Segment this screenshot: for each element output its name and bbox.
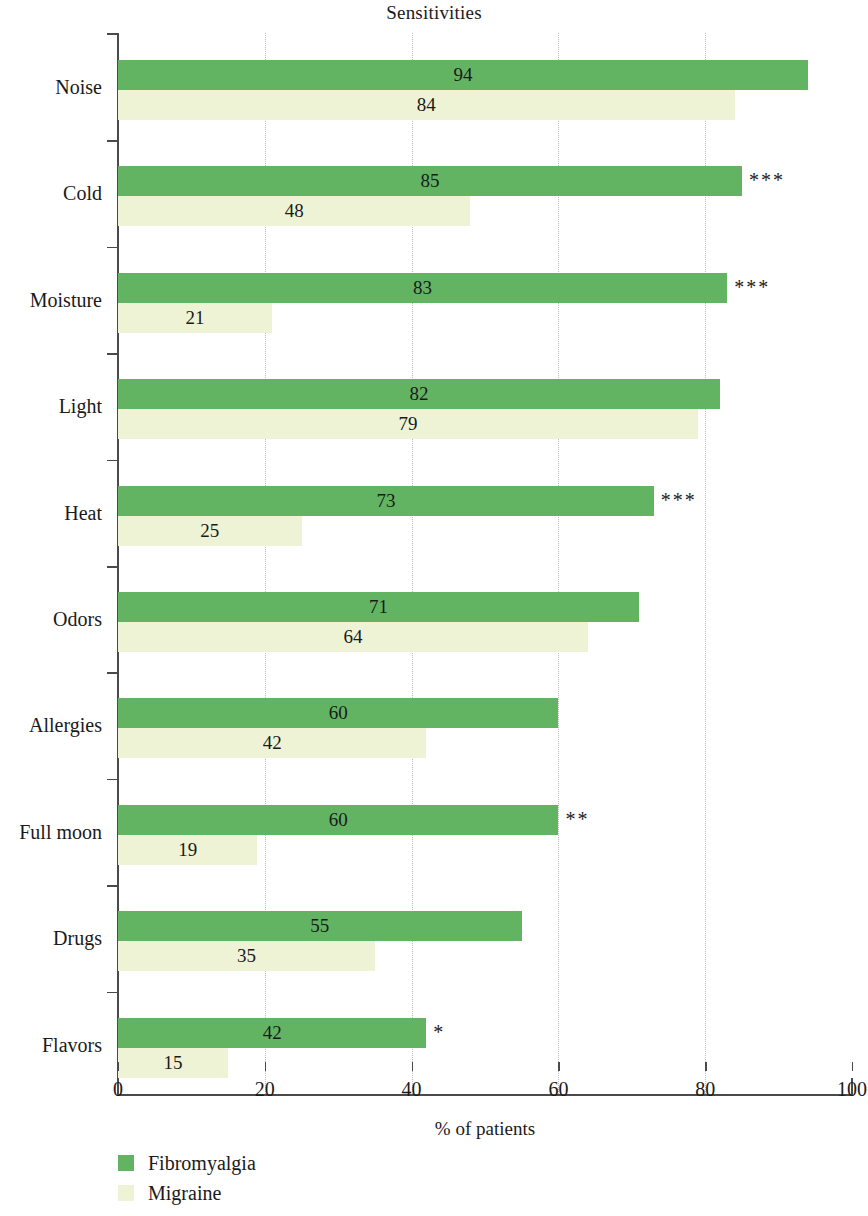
legend-label-fibromyalgia: Fibromyalgia	[148, 1153, 256, 1173]
bar-fibromyalgia-full-moon	[118, 805, 558, 835]
significance-marker-cold: ***	[749, 166, 785, 196]
legend-swatch-migraine	[118, 1185, 134, 1201]
x-tick-80	[705, 1062, 706, 1071]
category-label-heat: Heat	[0, 502, 102, 525]
category-label-flavors: Flavors	[0, 1034, 102, 1057]
y-tick-7	[107, 779, 118, 781]
bar-migraine-heat	[118, 516, 302, 546]
category-label-allergies: Allergies	[0, 714, 102, 737]
y-tick-6	[107, 672, 118, 674]
significance-marker-full-moon: **	[565, 805, 589, 835]
legend-item-fibromyalgia[interactable]: Fibromyalgia	[118, 1148, 256, 1178]
y-tick-3	[107, 353, 118, 355]
chart-title: Sensitivities	[0, 2, 868, 24]
sensitivities-bar-chart: Sensitivities 94848548***8321***82797325…	[0, 0, 868, 1216]
x-tick-100	[852, 1062, 853, 1071]
y-tick-1	[107, 140, 118, 142]
bar-migraine-cold	[118, 196, 470, 226]
bar-migraine-moisture	[118, 303, 272, 333]
chart-legend: FibromyalgiaMigraine	[118, 1148, 256, 1208]
plot-area: 94848548***8321***82797325***71646042601…	[118, 33, 852, 1094]
y-tick-4	[107, 460, 118, 462]
legend-swatch-fibromyalgia	[118, 1155, 134, 1171]
category-label-drugs: Drugs	[0, 927, 102, 950]
category-label-light: Light	[0, 395, 102, 418]
bar-fibromyalgia-odors	[118, 592, 639, 622]
bar-migraine-flavors	[118, 1048, 228, 1078]
x-tick-20	[265, 1062, 266, 1071]
bar-migraine-noise	[118, 90, 735, 120]
bar-migraine-drugs	[118, 941, 375, 971]
category-label-cold: Cold	[0, 182, 102, 205]
x-tick-label-80: 80	[675, 1078, 735, 1101]
x-tick-label-100: 100	[822, 1078, 868, 1101]
x-tick-label-20: 20	[235, 1078, 295, 1101]
y-tick-8	[107, 885, 118, 887]
bar-migraine-allergies	[118, 728, 426, 758]
bar-migraine-full-moon	[118, 835, 257, 865]
bar-fibromyalgia-heat	[118, 486, 654, 516]
bar-fibromyalgia-drugs	[118, 911, 522, 941]
bar-fibromyalgia-flavors	[118, 1018, 426, 1048]
y-tick-9	[107, 992, 118, 994]
x-tick-0	[118, 1062, 119, 1071]
x-tick-label-60: 60	[528, 1078, 588, 1101]
x-tick-40	[412, 1062, 413, 1071]
significance-marker-heat: ***	[661, 486, 697, 516]
bar-migraine-light	[118, 409, 698, 439]
category-label-noise: Noise	[0, 76, 102, 99]
y-tick-0	[107, 33, 118, 35]
category-label-odors: Odors	[0, 608, 102, 631]
legend-item-migraine[interactable]: Migraine	[118, 1178, 256, 1208]
x-axis-title: % of patients	[118, 1118, 852, 1140]
x-tick-label-40: 40	[382, 1078, 442, 1101]
category-label-moisture: Moisture	[0, 289, 102, 312]
bar-fibromyalgia-noise	[118, 60, 808, 90]
significance-marker-flavors: *	[433, 1018, 445, 1048]
x-tick-label-0: 0	[88, 1078, 148, 1101]
significance-marker-moisture: ***	[734, 273, 770, 303]
x-tick-60	[558, 1062, 559, 1071]
y-tick-5	[107, 566, 118, 568]
category-label-full-moon: Full moon	[0, 821, 102, 844]
y-tick-2	[107, 247, 118, 249]
bar-fibromyalgia-light	[118, 379, 720, 409]
bar-fibromyalgia-cold	[118, 166, 742, 196]
bar-migraine-odors	[118, 622, 588, 652]
x-axis-line	[117, 1094, 853, 1096]
legend-label-migraine: Migraine	[148, 1183, 221, 1203]
bar-fibromyalgia-allergies	[118, 698, 558, 728]
bar-fibromyalgia-moisture	[118, 273, 727, 303]
